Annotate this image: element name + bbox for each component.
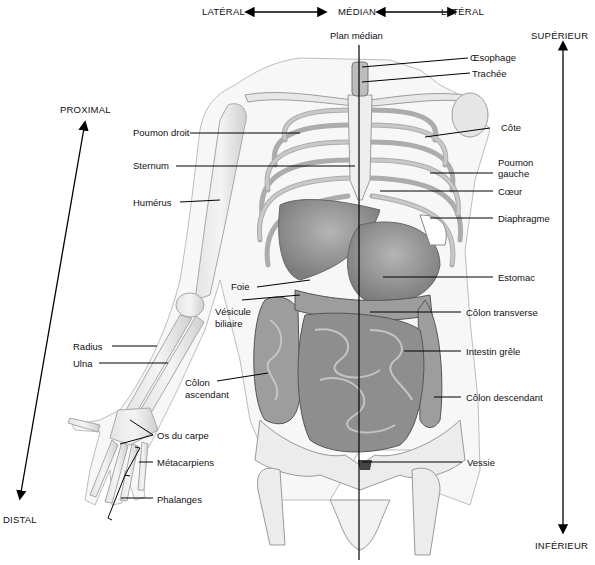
label-ulna: Ulna [73, 358, 93, 369]
label-poumon-gauche-1: Poumon [498, 157, 533, 168]
label-estomac: Estomac [498, 272, 535, 283]
ascending-colon [254, 297, 300, 424]
label-foie: Foie [231, 281, 249, 292]
label-colon-asc-1: Côlon [185, 377, 210, 388]
label-phalanges: Phalanges [157, 494, 202, 505]
proximal-label: PROXIMAL [60, 104, 111, 115]
label-humerus: Humérus [133, 197, 172, 208]
label-vesicule-2: biliaire [215, 318, 242, 329]
label-intestin-grele: Intestin grêle [466, 346, 520, 357]
label-vessie: Vessie [467, 457, 495, 468]
median-plane-label: Plan médian [330, 30, 383, 41]
inferior-label: INFÉRIEUR [535, 540, 588, 551]
median-label: MÉDIAN [338, 6, 376, 17]
label-radius: Radius [73, 341, 103, 352]
label-coeur: Cœur [498, 186, 522, 197]
label-colon-descendant: Côlon descendant [466, 392, 543, 403]
label-os-carpe: Os du carpe [157, 430, 209, 441]
sternum-bone [348, 95, 372, 200]
label-colon-asc-2: ascendant [185, 389, 229, 400]
superior-label: SUPÉRIEUR [531, 30, 588, 41]
label-sternum: Sternum [133, 160, 169, 171]
distal-label: DISTAL [3, 514, 37, 525]
label-diaphragme: Diaphragme [498, 213, 550, 224]
label-metacarpiens: Métacarpiens [157, 457, 214, 468]
femur-right [257, 468, 285, 545]
label-poumon-gauche-2: gauche [498, 168, 529, 179]
label-oesophage: Œsophage [470, 52, 516, 63]
anatomy-figure: LATÉRAL MÉDIAN LATÉRAL SUPÉRIEUR INFÉRIE… [0, 0, 595, 565]
femur-left [412, 468, 440, 555]
label-trachee: Trachée [472, 68, 507, 79]
label-colon-transverse: Côlon transverse [466, 307, 538, 318]
label-cote: Côte [501, 122, 521, 133]
proximal-distal-arrow [20, 128, 84, 498]
lateral-left-label: LATÉRAL [202, 6, 245, 17]
lateral-right-label: LATÉRAL [441, 6, 484, 17]
label-poumon-droit: Poumon droit [133, 127, 190, 138]
label-vesicule-1: Vésicule [215, 306, 251, 317]
elbow-joint [176, 293, 204, 317]
